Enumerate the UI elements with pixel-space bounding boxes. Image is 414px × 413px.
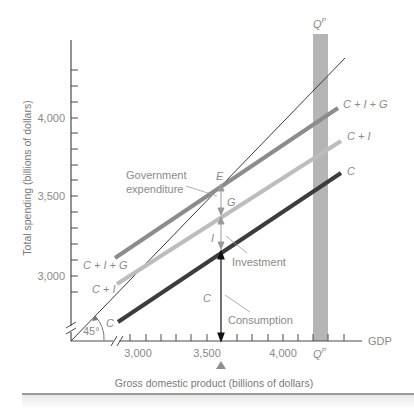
gov-expenditure-label-line2: expenditure <box>126 183 184 195</box>
g-component-arrow <box>218 184 224 215</box>
gov-expenditure-label-line1: Government <box>126 169 187 181</box>
y-axis-ticks <box>71 70 78 292</box>
c-component-arrow <box>218 251 224 341</box>
x-axis-end-label: GDP <box>368 335 392 347</box>
y-tick-label-3000: 3,000 <box>37 270 65 282</box>
c-left-label: C <box>106 317 114 329</box>
x-tick-label-3500: 3,500 <box>193 347 221 359</box>
consumption-leader-line <box>225 295 250 312</box>
bottom-shadow <box>22 395 414 409</box>
investment-label: Investment <box>232 256 286 268</box>
cig-right-label: C + I + G <box>343 98 388 110</box>
x-axis-title: Gross domestic product (billions of doll… <box>115 377 313 389</box>
equilibrium-marker-icon <box>216 361 226 369</box>
x-axis-ticks <box>130 334 344 341</box>
angle-label: 45° <box>83 325 100 337</box>
consumption-label: Consumption <box>228 314 293 326</box>
qp-top-label: QP <box>313 17 327 30</box>
ci-right-label: C + I <box>347 130 371 142</box>
ci-line <box>117 141 341 284</box>
i-letter: I <box>211 232 214 244</box>
c-letter: C <box>203 292 211 304</box>
aggregate-demand-chart: 4,000 3,500 3,000 3,000 3,500 4,000 QP Q… <box>0 0 414 413</box>
i-component-arrow <box>218 217 224 249</box>
qp-bottom-label: QP <box>313 347 327 360</box>
ci-left-label: C + I <box>92 283 116 295</box>
equilibrium-label: E <box>216 170 224 182</box>
y-axis <box>66 40 78 341</box>
g-letter: G <box>227 196 236 208</box>
y-tick-label-4000: 4,000 <box>37 112 65 124</box>
x-tick-label-4000: 4,000 <box>269 347 297 359</box>
cig-left-label: C + I + G <box>83 259 128 271</box>
c-right-label: C <box>347 165 355 177</box>
y-axis-title: Total spending (billions of dollars) <box>21 100 33 255</box>
x-tick-label-3000: 3,000 <box>124 347 152 359</box>
y-tick-label-3500: 3,500 <box>37 190 65 202</box>
